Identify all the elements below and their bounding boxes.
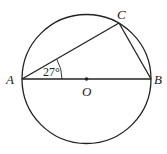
label-c: C — [117, 7, 126, 22]
label-a: A — [5, 72, 14, 87]
label-o: O — [82, 84, 92, 99]
center-point — [85, 77, 89, 81]
chord-ac — [22, 23, 119, 79]
chord-cb — [119, 23, 151, 79]
label-b: B — [154, 72, 162, 87]
angle-label: 27° — [43, 65, 60, 79]
geometry-diagram: A B C O 27° — [0, 0, 167, 154]
